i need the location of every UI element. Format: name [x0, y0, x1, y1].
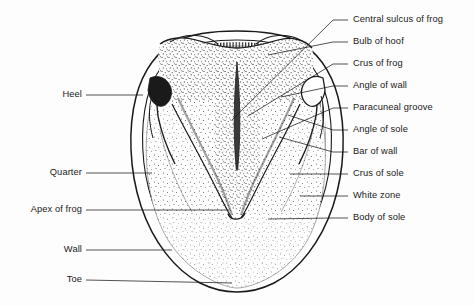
label-quarter: Quarter: [0, 168, 82, 177]
label-central-sulcus-of-frog: Central sulcus of frog: [353, 15, 443, 24]
hoof-capsule: [130, 30, 350, 300]
label-crus-of-frog: Crus of frog: [353, 59, 403, 68]
label-apex-of-frog: Apex of frog: [0, 205, 82, 214]
label-toe: Toe: [0, 275, 82, 284]
label-angle-of-wall: Angle of wall: [353, 81, 407, 90]
hoof-sole-anatomy-figure: Central sulcus of frogBulb of hoofCrus o…: [0, 0, 475, 306]
label-bulb-of-hoof: Bulb of hoof: [353, 37, 404, 46]
label-white-zone: White zone: [353, 191, 401, 200]
label-wall: Wall: [0, 245, 82, 254]
label-crus-of-sole: Crus of sole: [353, 169, 404, 178]
label-angle-of-sole: Angle of sole: [353, 125, 408, 134]
label-paracuneal-groove: Paracuneal groove: [353, 103, 433, 112]
label-heel: Heel: [0, 90, 82, 99]
label-body-of-sole: Body of sole: [353, 213, 405, 222]
label-bar-of-wall: Bar of wall: [353, 147, 398, 156]
